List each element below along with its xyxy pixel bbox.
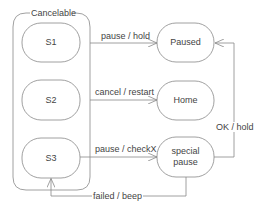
state-special-pause-label-2: pause <box>173 157 198 168</box>
state-home: Home <box>157 81 214 120</box>
state-paused-label: Paused <box>170 37 201 48</box>
state-s2-label: S2 <box>45 95 56 106</box>
transition-special-paused <box>214 43 234 157</box>
state-s1-label: S1 <box>45 37 56 48</box>
state-s3: S3 <box>22 138 80 178</box>
state-s2: S2 <box>22 80 80 120</box>
state-home-label: Home <box>173 95 197 106</box>
transition-label-cancel-restart: cancel / restart <box>95 87 154 97</box>
transition-label-pause-checkx: pause / checkX <box>95 144 157 154</box>
transition-label-ok-hold: OK / hold <box>216 122 254 132</box>
transition-label-failed-beep: failed / beep <box>92 191 143 201</box>
state-s3-label: S3 <box>45 153 56 164</box>
container-label: Cancelable <box>31 8 76 18</box>
state-special-pause: special pause <box>157 137 214 177</box>
state-special-pause-label-1: special <box>171 146 199 157</box>
state-paused: Paused <box>157 23 214 62</box>
state-s1: S1 <box>22 23 80 62</box>
transition-label-pause-hold: pause / hold <box>101 31 150 41</box>
